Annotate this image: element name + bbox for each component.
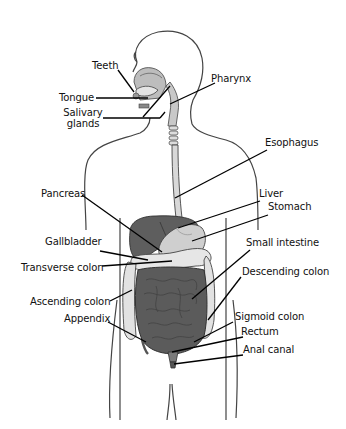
ascending-colon-shape <box>123 262 136 339</box>
label-salivary-glands-line1: Salivary <box>63 107 103 118</box>
label-anal-canal: Anal canal <box>243 344 294 355</box>
label-pharynx: Pharynx <box>211 73 251 84</box>
esophagus-shape <box>172 145 182 218</box>
label-gallbladder: Gallbladder <box>45 236 102 247</box>
label-descending-colon: Descending colon <box>242 266 329 277</box>
label-small-intestine: Small intestine <box>246 237 319 248</box>
label-ascending-colon: Ascending colon <box>30 296 110 307</box>
body-illustration <box>0 0 346 429</box>
label-appendix: Appendix <box>64 313 110 324</box>
label-salivary-glands: Salivary glands <box>63 107 103 129</box>
label-teeth: Teeth <box>92 60 118 71</box>
label-liver: Liver <box>259 188 283 199</box>
label-salivary-glands-line2: glands <box>63 118 103 129</box>
digestive-system-diagram: Teeth Tongue Salivary glands Pharynx Eso… <box>0 0 346 429</box>
label-esophagus: Esophagus <box>265 137 318 148</box>
label-pancreas: Pancreas <box>41 188 85 199</box>
label-sigmoid-colon: Sigmoid colon <box>235 311 304 322</box>
label-transverse-colon: Transverse colon <box>21 262 103 273</box>
label-tongue: Tongue <box>59 92 94 103</box>
label-stomach: Stomach <box>268 201 311 212</box>
label-rectum: Rectum <box>241 326 279 337</box>
rectum-shape <box>168 352 178 362</box>
